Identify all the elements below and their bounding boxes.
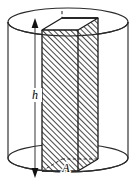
prism-group <box>42 18 98 171</box>
area-label: A <box>61 161 70 175</box>
height-arrowhead-up <box>32 18 39 28</box>
height-label: h <box>32 88 38 102</box>
area-label-group: A <box>61 161 70 175</box>
height-arrowhead-down <box>32 168 39 178</box>
prism-right-face <box>78 18 98 171</box>
prism-front-face <box>42 30 78 171</box>
geometry-figure: h A <box>0 0 136 185</box>
height-dimension-group: h <box>29 18 42 178</box>
prism-in-cylinder-diagram: h A <box>0 0 136 185</box>
